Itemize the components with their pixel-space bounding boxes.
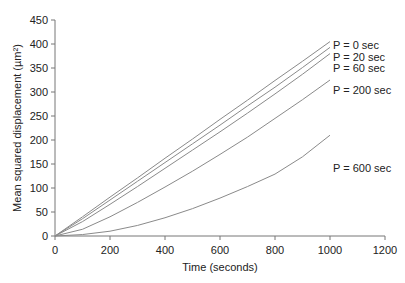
series-label: P = 200 sec xyxy=(333,84,392,96)
x-tick-label: 400 xyxy=(156,244,174,256)
x-tick-label: 1200 xyxy=(373,244,397,256)
x-tick-label: 0 xyxy=(52,244,58,256)
y-tick-label: 0 xyxy=(42,230,48,242)
y-tick-label: 200 xyxy=(30,134,48,146)
y-tick-label: 300 xyxy=(30,86,48,98)
y-tick-label: 450 xyxy=(30,14,48,26)
x-axis-label: Time (seconds) xyxy=(182,261,257,273)
y-tick-label: 50 xyxy=(36,206,48,218)
x-tick-label: 1000 xyxy=(318,244,342,256)
y-axis-label: Mean squared displacement (µm²) xyxy=(11,44,23,212)
series-label: P = 600 sec xyxy=(333,162,392,174)
series-line xyxy=(55,47,330,236)
y-tick-label: 150 xyxy=(30,158,48,170)
series-label: P = 60 sec xyxy=(333,62,386,74)
chart: 0501001502002503003504004500200400600800… xyxy=(0,0,405,283)
x-tick-label: 600 xyxy=(211,244,229,256)
series-label: P = 0 sec xyxy=(333,39,379,51)
y-tick-label: 250 xyxy=(30,110,48,122)
y-tick-label: 400 xyxy=(30,38,48,50)
x-tick-label: 200 xyxy=(101,244,119,256)
x-tick-label: 800 xyxy=(266,244,284,256)
line-labels: P = 0 secP = 20 secP = 60 secP = 200 sec… xyxy=(333,39,392,174)
series-line xyxy=(55,42,330,236)
y-tick-label: 350 xyxy=(30,62,48,74)
plot-lines xyxy=(55,42,330,236)
y-tick-label: 100 xyxy=(30,182,48,194)
